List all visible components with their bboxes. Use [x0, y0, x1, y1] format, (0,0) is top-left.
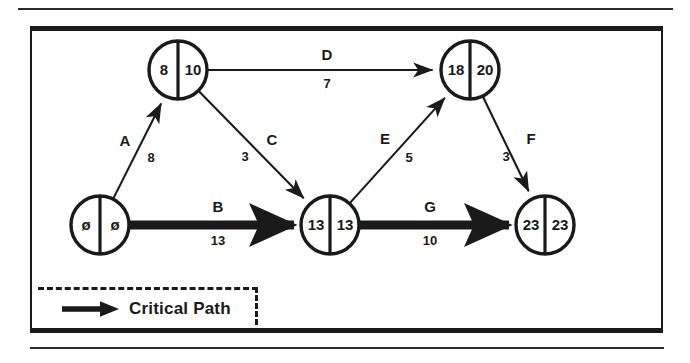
node-late-time: 20	[477, 61, 494, 78]
edge-duration-g: 10	[423, 233, 437, 248]
edge-label-b: B	[213, 198, 224, 215]
node-early-time: ø	[81, 216, 91, 233]
edge-duration-c: 3	[241, 149, 248, 164]
node-n2: 810	[149, 41, 207, 99]
node-early-time: 8	[160, 61, 168, 78]
node-late-time: ø	[110, 216, 120, 233]
edge-c	[199, 91, 304, 198]
node-early-time: 23	[523, 216, 540, 233]
edge-label-f: F	[526, 130, 535, 147]
edge-e	[350, 98, 445, 203]
node-late-time: 10	[185, 61, 202, 78]
legend-label: Critical Path	[129, 299, 231, 319]
node-early-time: 18	[448, 61, 465, 78]
node-start: øø	[71, 196, 129, 254]
edge-f	[483, 97, 529, 192]
edge-label-c: C	[267, 131, 278, 148]
node-late-time: 13	[337, 216, 354, 233]
edge-label-a: A	[120, 132, 131, 149]
node-late-time: 23	[552, 216, 569, 233]
node-n4: 1820	[441, 41, 499, 99]
edge-duration-b: 13	[211, 233, 225, 248]
edge-label-g: G	[424, 198, 436, 215]
edge-duration-f: 3	[502, 149, 509, 164]
legend-box: Critical Path	[38, 287, 258, 325]
edge-label-e: E	[380, 130, 390, 147]
node-n3: 1313	[301, 196, 359, 254]
thick-arrow-icon	[62, 300, 120, 318]
edge-label-d: D	[322, 46, 333, 63]
edge-duration-e: 5	[405, 150, 412, 165]
node-early-time: 13	[308, 216, 325, 233]
node-end: 2323	[516, 196, 574, 254]
edge-duration-a: 8	[147, 150, 154, 165]
edge-duration-d: 7	[323, 76, 330, 91]
network-diagram-figure: øø810131318202323 A8B13C3D7E5F3G10 Criti…	[0, 0, 690, 363]
